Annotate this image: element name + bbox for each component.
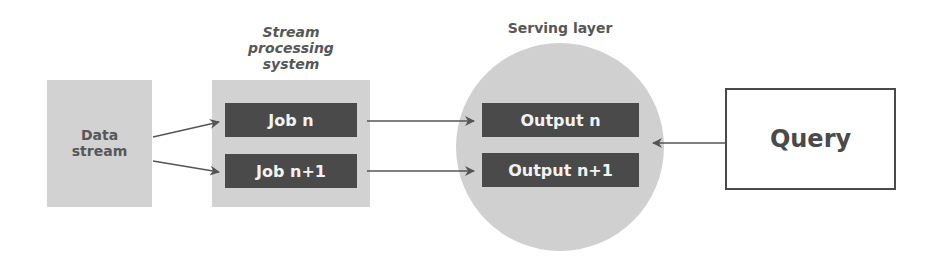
arrow-data-to-job-n <box>153 122 219 137</box>
arrow-data-to-job-n-plus-1 <box>153 161 219 172</box>
arrows-layer <box>0 0 940 267</box>
